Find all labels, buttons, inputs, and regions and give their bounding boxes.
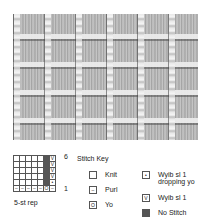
row-number-top: 6 [64,153,68,160]
row-number-bottom: 1 [64,185,68,192]
repeat-label: 5-st rep [14,199,38,206]
key-purl: – Purl [89,186,117,194]
key-label: Purl [105,186,117,193]
slip-stitch-rib [107,14,113,140]
key-label: Wyib sl 1 dropping yo [158,171,212,185]
no-stitch-symbol-icon [142,209,150,217]
v-symbol-icon: V [142,194,150,202]
key-yo: O Yo [89,201,113,209]
slip-stitch-rib [45,14,51,140]
dot-symbol-icon: • [142,171,150,179]
knit-symbol-icon [89,171,97,179]
slip-stitch-rib [76,14,82,140]
key-knit: Knit [89,171,117,179]
key-wyib-sl1-dropping-yo: • Wyib sl 1 dropping yo [142,171,212,185]
key-label: Yo [105,201,113,208]
chart-row: –––––O– [14,186,56,192]
swatch-photo [13,14,198,140]
yo-symbol-icon: O [89,201,97,209]
chart-cell: – [50,186,56,192]
key-label: Knit [105,171,117,178]
slip-stitch-rib [14,14,20,140]
slip-stitch-rib [138,14,144,140]
key-label: Wyib sl 1 [158,194,186,201]
key-no-stitch: No Stitch [142,209,186,217]
slip-stitch-rib [169,14,175,140]
stitch-key-title: Stitch Key [77,155,109,162]
purl-symbol-icon: – [89,186,97,194]
key-wyib-sl1: V Wyib sl 1 [142,194,186,202]
key-label: No Stitch [158,209,186,216]
stitch-chart: VVVV•–––––O– [13,155,56,192]
